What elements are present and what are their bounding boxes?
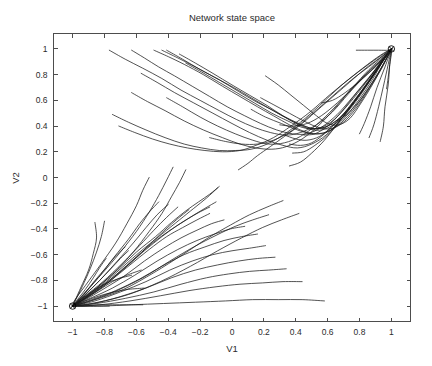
x-tick-label: 0.4 (290, 327, 302, 337)
x-tick-label: 0.8 (354, 327, 366, 337)
y-tick-label: −1 (38, 301, 48, 311)
x-tick-label: −0.2 (192, 327, 209, 337)
y-tick-label: 0 (43, 173, 48, 183)
y-tick-label: −0.8 (31, 275, 48, 285)
x-tick-label: 0.6 (322, 327, 334, 337)
y-tick-label: 0.6 (36, 95, 48, 105)
chart-title: Network state space (189, 12, 275, 23)
x-tick-label: 0 (230, 327, 235, 337)
y-tick-label: 1 (43, 44, 48, 54)
x-axis-label: V1 (226, 343, 238, 354)
y-tick-label: −0.4 (31, 224, 48, 234)
phase-portrait-plot: Network state space −1−0.8−0.6−0.4−0.200… (0, 0, 432, 366)
y-tick-label: 0.2 (36, 147, 48, 157)
x-tick-label: −0.4 (160, 327, 177, 337)
x-tick-label: 0.2 (258, 327, 270, 337)
y-tick-label: 0.4 (36, 121, 48, 131)
figure-background (0, 0, 432, 366)
y-tick-label: −0.2 (31, 198, 48, 208)
figure-canvas: Network state space −1−0.8−0.6−0.4−0.200… (0, 0, 432, 366)
x-tick-label: −0.8 (96, 327, 113, 337)
x-tick-label: −0.6 (128, 327, 145, 337)
y-tick-label: 0.8 (36, 70, 48, 80)
x-tick-label: −1 (68, 327, 78, 337)
y-axis-label: V2 (10, 172, 21, 184)
x-tick-label: 1 (389, 327, 394, 337)
y-tick-label: −0.6 (31, 250, 48, 260)
